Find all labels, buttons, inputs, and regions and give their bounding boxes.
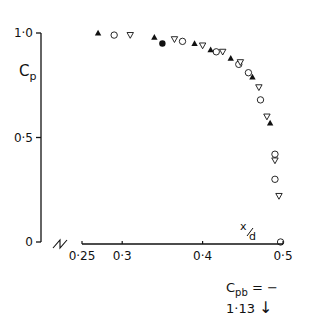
data-point-open-circle bbox=[257, 97, 263, 103]
base-pressure-annotation: Cpb = − 1·13 ↓ bbox=[226, 280, 310, 316]
data-point-open-triangle-down bbox=[199, 43, 205, 49]
y-tick-label: 1·0 bbox=[14, 26, 33, 40]
data-point-open-triangle-down bbox=[127, 33, 133, 39]
data-point-open-circle bbox=[245, 70, 251, 76]
data-point-open-triangle-down bbox=[276, 193, 282, 199]
data-point-open-triangle-down bbox=[220, 49, 226, 55]
axis-break-icon bbox=[53, 240, 67, 248]
y-tick-label: 0·5 bbox=[14, 131, 33, 145]
x-tick-label: 0·3 bbox=[113, 249, 132, 263]
data-point-filled-circle bbox=[159, 40, 165, 46]
y-axis-label: Cp bbox=[19, 62, 36, 83]
data-point-open-triangle-down bbox=[272, 158, 278, 164]
data-point-filled-triangle bbox=[95, 30, 101, 36]
x-tick-label: 0·5 bbox=[273, 249, 292, 263]
data-point-open-circle bbox=[111, 32, 117, 38]
x-axis-label: xd bbox=[240, 220, 256, 243]
data-point-open-triangle-down bbox=[237, 60, 243, 66]
chart-plot: 00·51·00·250·30·40·5xd bbox=[0, 0, 310, 316]
data-point-filled-triangle bbox=[191, 40, 197, 46]
data-point-filled-triangle bbox=[267, 120, 273, 126]
data-point-open-triangle-down bbox=[256, 85, 262, 91]
data-point-open-circle bbox=[179, 38, 185, 44]
x-tick-label: 0·4 bbox=[193, 249, 212, 263]
y-tick-label: 0 bbox=[25, 235, 33, 249]
data-point-filled-triangle bbox=[228, 55, 234, 61]
svg-text:d: d bbox=[249, 230, 256, 243]
svg-text:x: x bbox=[240, 220, 247, 233]
data-point-open-triangle-down bbox=[171, 37, 177, 43]
data-point-open-triangle-down bbox=[264, 114, 270, 120]
x-tick-label: 0·25 bbox=[69, 249, 96, 263]
data-point-open-circle bbox=[272, 151, 278, 157]
down-arrow-icon: ↓ bbox=[259, 298, 272, 316]
data-point-filled-triangle bbox=[249, 74, 255, 80]
data-point-open-circle bbox=[272, 176, 278, 182]
data-point-filled-triangle bbox=[151, 34, 157, 40]
data-point-open-circle bbox=[213, 49, 219, 55]
